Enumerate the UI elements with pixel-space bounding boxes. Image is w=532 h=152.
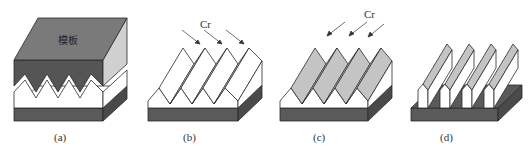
panel-label-a: (a) bbox=[54, 131, 67, 144]
mold-block bbox=[14, 18, 127, 92]
panel-b: Cr (b) bbox=[148, 18, 262, 144]
cr-label-c: Cr bbox=[364, 8, 375, 20]
panel-label-d: (d) bbox=[440, 131, 453, 144]
ridges-c bbox=[280, 48, 392, 108]
panel-label-c: (c) bbox=[313, 131, 326, 144]
panel-a: 模板 (a) bbox=[14, 18, 127, 144]
cr-label-b: Cr bbox=[200, 18, 211, 30]
fabrication-process-diagram: 模板 (a) Cr (b) bbox=[0, 0, 532, 152]
cr-arrows-c bbox=[327, 22, 384, 37]
panel-d: (d) bbox=[411, 44, 522, 144]
panel-c: Cr (c) bbox=[280, 8, 392, 144]
mold-label: 模板 bbox=[58, 34, 78, 46]
panel-label-b: (b) bbox=[183, 131, 196, 144]
ridges-b bbox=[148, 48, 262, 108]
cr-arrows-b bbox=[182, 30, 244, 44]
